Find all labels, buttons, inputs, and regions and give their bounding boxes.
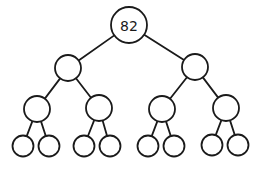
node-circle	[213, 95, 239, 121]
tree-node	[13, 136, 34, 157]
node-circle	[39, 136, 60, 157]
tree-edges	[27, 35, 235, 137]
node-circle	[138, 136, 159, 157]
node-circle	[55, 55, 81, 81]
tree-edge-n1-n3	[45, 78, 60, 98]
node-circle	[228, 135, 249, 156]
tree-node	[164, 136, 185, 157]
tree-edge-n6-n13	[216, 120, 222, 135]
tree-edge-n3-n7	[27, 121, 33, 136]
tree-edge-n6-n14	[230, 120, 235, 135]
tree-edge-n2-n6	[203, 77, 218, 97]
node-circle	[182, 54, 208, 80]
node-circle	[100, 136, 121, 157]
tree-nodes: 82	[13, 7, 249, 157]
tree-edge-n0-n1	[79, 35, 115, 60]
tree-edge-n3-n8	[41, 121, 46, 136]
tree-edge-n0-n2	[144, 35, 184, 60]
node-circle	[164, 136, 185, 157]
tree-edge-n4-n10	[103, 120, 107, 135]
tree-node	[55, 55, 81, 81]
tree-node	[138, 136, 159, 157]
tree-edge-n2-n5	[170, 77, 187, 99]
tree-node	[202, 135, 223, 156]
tree-node	[213, 95, 239, 121]
tree-edge-n5-n11	[152, 121, 158, 136]
tree-edge-n1-n4	[76, 78, 91, 97]
tree-node	[228, 135, 249, 156]
tree-edge-n4-n9	[88, 120, 94, 136]
tree-node	[24, 96, 50, 122]
node-circle	[13, 136, 34, 157]
tree-edge-n5-n12	[166, 121, 171, 136]
node-label: 82	[120, 18, 138, 34]
tree-node	[74, 136, 95, 157]
tree-node	[182, 54, 208, 80]
tree-root-node: 82	[111, 7, 147, 43]
tree-node	[100, 136, 121, 157]
node-circle	[24, 96, 50, 122]
binary-tree-diagram: 82	[0, 0, 262, 172]
node-circle	[202, 135, 223, 156]
tree-node	[86, 95, 112, 121]
node-circle	[149, 96, 175, 122]
tree-node	[39, 136, 60, 157]
tree-node	[149, 96, 175, 122]
node-circle	[86, 95, 112, 121]
node-circle	[74, 136, 95, 157]
